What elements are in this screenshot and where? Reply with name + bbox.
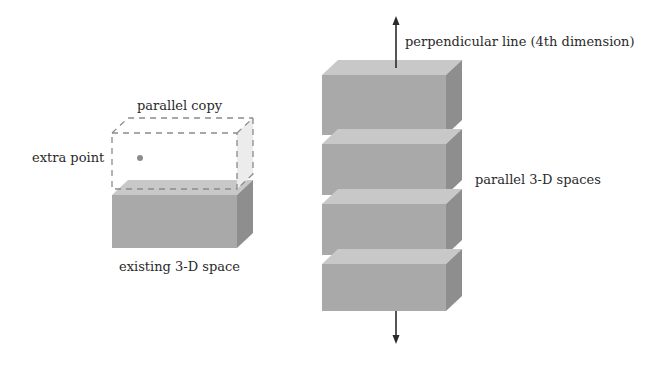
parallel-copy-block	[112, 118, 253, 189]
stack-block-3	[322, 189, 462, 255]
arrow-up-icon	[393, 16, 400, 25]
stack-block-4	[322, 249, 462, 311]
extra-point-label: extra point	[32, 151, 104, 164]
parallel-copy-label: parallel copy	[137, 99, 222, 112]
parallel-3d-spaces-label: parallel 3-D spaces	[475, 173, 601, 186]
existing-3d-space-block	[112, 180, 253, 248]
perpendicular-line-label: perpendicular line (4th dimension)	[405, 35, 635, 48]
extra-point-dot	[137, 155, 143, 161]
parallel-spaces-stack	[322, 60, 462, 311]
existing-3d-space-label: existing 3-D space	[119, 260, 240, 273]
block-front-face	[112, 195, 237, 248]
perpendicular-arrow-down	[393, 311, 400, 344]
copy-side-face	[237, 118, 253, 189]
arrow-down-icon	[393, 335, 400, 344]
copy-top-back-edge	[112, 118, 253, 133]
stack-block-1	[322, 60, 462, 135]
block-top-face	[112, 180, 253, 195]
stack-block-2	[322, 129, 462, 195]
